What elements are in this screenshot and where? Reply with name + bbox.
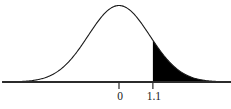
tick-label-cutoff: 1.1 [147, 90, 162, 102]
shaded-tail-region [153, 40, 228, 82]
tick-label-zero: 0 [117, 90, 123, 102]
normal-curve [5, 6, 228, 82]
normal-distribution-figure: 0 1.1 [0, 0, 231, 109]
x-axis-tick-marks [119, 83, 153, 89]
distribution-plot: 0 1.1 [0, 0, 231, 109]
